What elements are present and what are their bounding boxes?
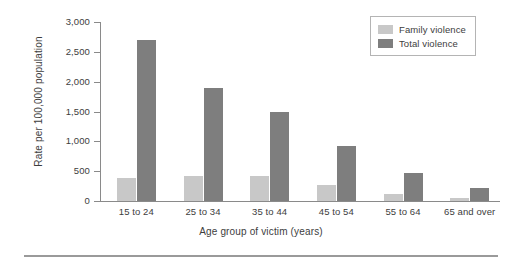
y-axis-tick-label: 2,000 (30, 77, 90, 87)
legend-swatch-family-violence (378, 25, 393, 34)
bar-family-violence (184, 176, 203, 201)
chart-legend: Family violence Total violence (370, 16, 476, 56)
bar-group (250, 22, 289, 201)
bar-total-violence (404, 173, 423, 201)
y-axis-tick-label-text: 2,500 (34, 47, 90, 57)
legend-label-family-violence: Family violence (399, 24, 466, 35)
y-axis-tick-label-text: 2,000 (34, 77, 90, 87)
bar-total-violence (337, 146, 356, 201)
bar-family-violence (250, 176, 269, 201)
y-axis-tick-mark (94, 201, 100, 202)
bar-total-violence (204, 88, 223, 201)
y-axis-tick-label-text: 1,000 (34, 136, 90, 146)
y-axis-tick-label: 500 (30, 166, 90, 176)
y-axis-tick-label: 0 (30, 196, 90, 206)
x-axis-title: Age group of victim (years) (0, 226, 522, 237)
y-axis-tick-label: 2,500 (30, 47, 90, 57)
bar-group (317, 22, 356, 201)
bar-group (117, 22, 156, 201)
bar-family-violence (450, 198, 469, 201)
y-axis-tick-label: 1,000 (30, 136, 90, 146)
bar-total-violence (270, 112, 289, 202)
bar-group (184, 22, 223, 201)
legend-item-total-violence: Total violence (378, 36, 466, 50)
bar-family-violence (317, 185, 336, 201)
bar-total-violence (470, 188, 489, 201)
chart-figure: Rate per 100,000 population 05001,0001,5… (0, 0, 522, 268)
bar-total-violence (137, 40, 156, 201)
legend-label-total-violence: Total violence (399, 38, 458, 49)
x-axis-tick-label: 65 and over (425, 206, 515, 217)
y-axis-tick-label-text: 3,000 (34, 17, 90, 27)
legend-swatch-total-violence (378, 39, 393, 48)
y-axis-tick-label-text: 0 (34, 196, 90, 206)
legend-item-family-violence: Family violence (378, 22, 466, 36)
y-axis-tick-label-text: 1,500 (34, 107, 90, 117)
bottom-rule (24, 255, 498, 257)
x-axis-line (100, 201, 500, 202)
bar-family-violence (384, 194, 403, 201)
y-axis-title: Rate per 100,000 population (33, 12, 44, 192)
bar-family-violence (117, 178, 136, 201)
y-axis-tick-label: 1,500 (30, 107, 90, 117)
y-axis-tick-label-text: 500 (34, 166, 90, 176)
y-axis-tick-label: 3,000 (30, 17, 90, 27)
